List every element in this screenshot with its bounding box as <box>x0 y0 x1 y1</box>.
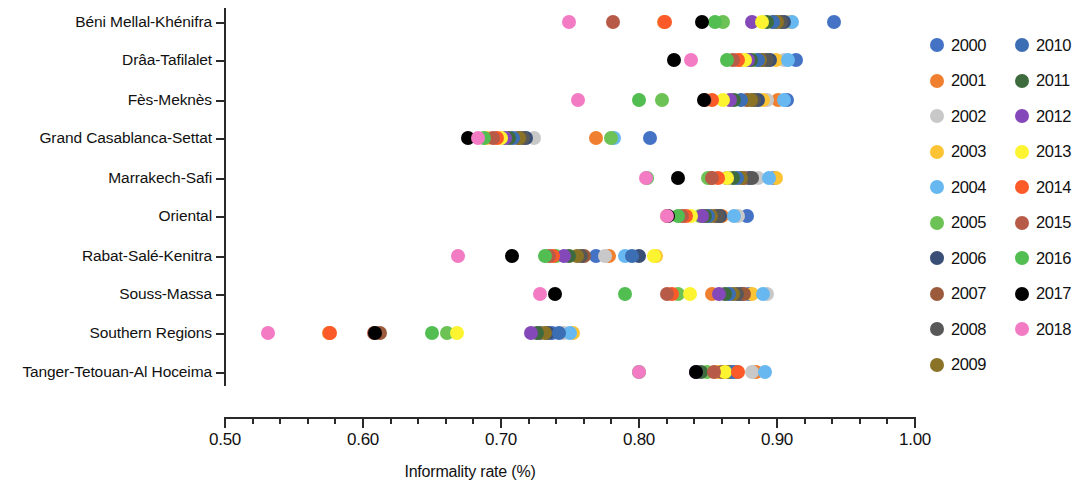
x-axis-minor-tick <box>886 417 888 424</box>
x-axis-minor-tick <box>583 417 585 424</box>
data-point <box>705 171 719 185</box>
data-point <box>524 326 538 340</box>
legend-swatch-icon <box>1015 322 1029 336</box>
data-point <box>548 287 562 301</box>
data-point <box>538 249 552 263</box>
x-axis-minor-tick <box>721 417 723 424</box>
data-point <box>323 326 337 340</box>
legend-item-2011[interactable]: 2011 <box>1015 72 1070 90</box>
legend-swatch-icon <box>1015 251 1029 265</box>
data-point <box>647 249 661 263</box>
legend-item-2013[interactable]: 2013 <box>1015 143 1071 161</box>
data-point <box>762 171 776 185</box>
legend-swatch-icon <box>930 38 944 52</box>
y-axis-label: Béni Mellal-Khénifra <box>75 14 212 30</box>
x-axis-tick-label: 0.70 <box>485 431 517 448</box>
legend-item-2007[interactable]: 2007 <box>930 285 986 303</box>
legend-label: 2010 <box>1036 37 1071 54</box>
x-axis-minor-tick <box>748 417 750 424</box>
legend-item-2009[interactable]: 2009 <box>930 356 986 374</box>
data-point <box>450 326 464 340</box>
y-axis-label: Fès-Meknès <box>128 92 212 108</box>
legend-item-2003[interactable]: 2003 <box>930 143 986 161</box>
legend-swatch-icon <box>1015 38 1029 52</box>
y-axis-tick <box>216 178 225 180</box>
y-axis-label: Grand Casablanca-Settat <box>39 130 212 146</box>
legend-item-2016[interactable]: 2016 <box>1015 249 1071 267</box>
legend-swatch-icon <box>1015 74 1029 88</box>
legend-label: 2005 <box>951 214 986 231</box>
data-point <box>658 15 672 29</box>
x-axis-minor-tick <box>831 417 833 424</box>
data-point <box>639 171 653 185</box>
data-point <box>708 15 722 29</box>
legend-swatch-icon <box>930 180 944 194</box>
legend-swatch-icon <box>930 287 944 301</box>
y-axis-label: Marrakech-Safi <box>108 170 212 186</box>
data-point <box>781 53 795 67</box>
x-axis-minor-tick <box>334 417 336 424</box>
data-point <box>604 131 618 145</box>
data-point <box>667 53 681 67</box>
data-point <box>606 15 620 29</box>
legend-swatch-icon <box>1015 287 1029 301</box>
data-point <box>727 209 741 223</box>
data-point <box>571 93 585 107</box>
legend-item-2006[interactable]: 2006 <box>930 249 986 267</box>
legend: 2000200120022003200420052006200720082009… <box>930 36 1088 381</box>
x-axis-major-tick <box>362 417 364 428</box>
y-axis-label: Southern Regions <box>90 325 212 341</box>
x-axis-minor-tick <box>693 417 695 424</box>
legend-item-2005[interactable]: 2005 <box>930 214 986 232</box>
data-point <box>589 131 603 145</box>
legend-swatch-icon <box>1015 180 1029 194</box>
data-point <box>695 15 709 29</box>
legend-item-2002[interactable]: 2002 <box>930 107 986 125</box>
legend-item-2001[interactable]: 2001 <box>930 72 986 90</box>
data-point <box>655 93 669 107</box>
data-point <box>660 209 674 223</box>
legend-item-2010[interactable]: 2010 <box>1015 36 1071 54</box>
data-point <box>598 249 612 263</box>
data-point <box>261 326 275 340</box>
data-point <box>505 249 519 263</box>
x-axis-minor-tick <box>390 417 392 424</box>
y-axis-label: Tanger-Tetouan-Al Hoceima <box>22 364 212 380</box>
legend-item-2008[interactable]: 2008 <box>930 320 986 338</box>
legend-item-2004[interactable]: 2004 <box>930 178 986 196</box>
legend-item-2014[interactable]: 2014 <box>1015 178 1071 196</box>
data-point <box>643 131 657 145</box>
x-axis-major-tick <box>224 417 226 428</box>
data-point <box>632 93 646 107</box>
legend-item-2015[interactable]: 2015 <box>1015 214 1071 232</box>
data-point <box>684 53 698 67</box>
legend-label: 2008 <box>951 321 986 338</box>
legend-swatch-icon <box>1015 109 1029 123</box>
x-axis-major-tick <box>914 417 916 428</box>
data-point <box>425 326 439 340</box>
y-axis-tick <box>216 216 225 218</box>
legend-swatch-icon <box>930 322 944 336</box>
legend-label: 2000 <box>951 37 986 54</box>
data-point <box>712 287 726 301</box>
legend-label: 2016 <box>1036 250 1071 267</box>
y-axis-tick <box>216 100 225 102</box>
legend-item-2000[interactable]: 2000 <box>930 36 986 54</box>
data-point <box>618 287 632 301</box>
data-point <box>660 287 674 301</box>
x-axis-minor-tick <box>804 417 806 424</box>
legend-swatch-icon <box>1015 145 1029 159</box>
legend-item-2018[interactable]: 2018 <box>1015 320 1071 338</box>
data-point <box>632 365 646 379</box>
legend-swatch-icon <box>930 216 944 230</box>
y-axis-label: Souss-Massa <box>119 286 212 302</box>
data-point <box>756 287 770 301</box>
x-axis-minor-tick <box>445 417 447 424</box>
legend-item-2012[interactable]: 2012 <box>1015 107 1071 125</box>
legend-label: 2006 <box>951 250 986 267</box>
legend-item-2017[interactable]: 2017 <box>1015 285 1071 303</box>
x-axis-minor-tick <box>528 417 530 424</box>
data-point <box>758 365 772 379</box>
x-axis-minor-tick <box>555 417 557 424</box>
legend-swatch-icon <box>930 145 944 159</box>
